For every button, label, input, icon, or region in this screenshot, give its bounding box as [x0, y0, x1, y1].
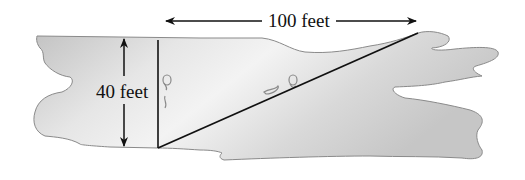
width-label: 40 feet — [96, 81, 149, 102]
downstream-label: 100 feet — [268, 10, 330, 31]
river-diagram: 40 feet 100 feet — [0, 0, 525, 180]
